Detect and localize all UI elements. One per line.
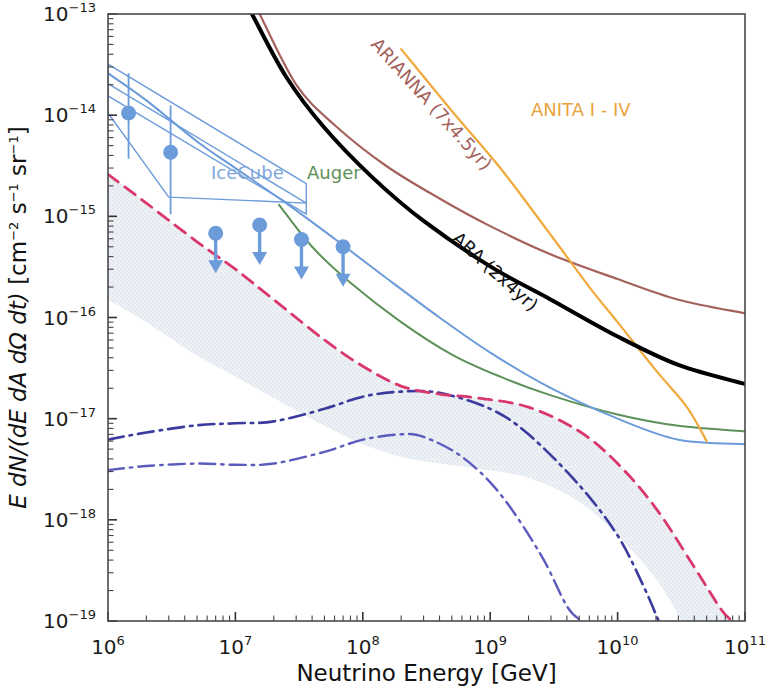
icecube-marker [294, 232, 309, 247]
x-axis-title: Neutrino Energy [GeV] [296, 660, 556, 686]
anita-label: ANITA I - IV [531, 99, 631, 120]
auger-label: Auger [307, 162, 361, 183]
y-axis-title: E dN/(dE dA dΩ dt) [cm−2 s−1 sr−1] [5, 126, 31, 508]
icecube-marker [336, 239, 351, 254]
icecube-marker [163, 145, 178, 160]
icecube-label: IceCube [211, 162, 284, 183]
figure-root: 1061071081091010101110−1310−1410−1510−16… [0, 0, 778, 689]
flux-limit-plot: 1061071081091010101110−1310−1410−1510−16… [0, 0, 778, 689]
icecube-marker [208, 226, 223, 241]
icecube-marker [121, 106, 136, 121]
icecube-marker [252, 218, 267, 233]
